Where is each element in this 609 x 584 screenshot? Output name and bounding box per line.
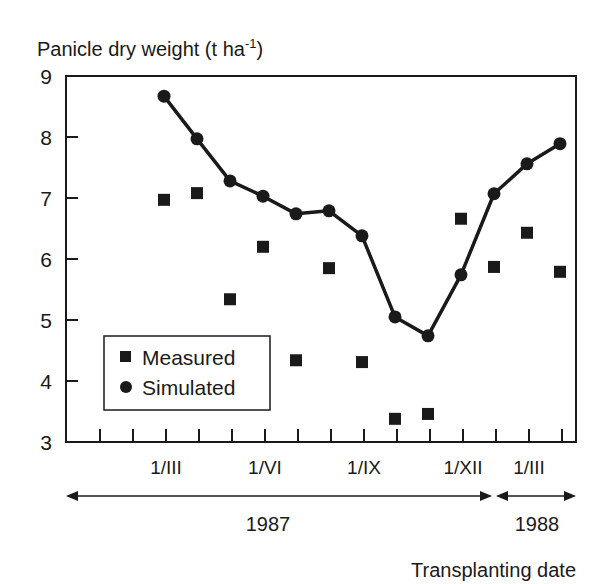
simulated-points [158,90,567,343]
measured-point [158,194,170,206]
y-tick-label: 4 [40,370,52,393]
measured-point [191,187,203,199]
x-month-label: 1/VI [248,457,282,478]
measured-point [422,408,434,420]
measured-point [554,266,566,278]
simulated-point [455,268,468,281]
y-tick-label: 7 [40,187,52,210]
simulated-point [224,174,237,187]
x-month-label: 1/III [150,457,182,478]
measured-point [356,356,368,368]
year-label: 1988 [515,513,560,535]
simulated-point [257,190,270,203]
year-label: 1987 [246,513,291,535]
y-axis-title: Panicle dry weight (t ha-1) [37,36,263,60]
simulated-point [191,132,204,145]
simulated-point [554,137,567,150]
simulated-point [323,204,336,217]
x-axis-title: Transplanting date [411,559,576,581]
simulated-point [290,207,303,220]
simulated-line [164,96,560,336]
simulated-point [389,310,402,323]
measured-point [323,262,335,274]
y-tick-label: 3 [40,431,52,454]
measured-point [488,261,500,273]
simulated-point [521,157,534,170]
simulated-point [158,90,171,103]
y-tick-label: 8 [40,126,52,149]
y-tick-label: 5 [40,309,52,332]
measured-point [455,213,467,225]
measured-point [389,413,401,425]
measured-point [257,241,269,253]
measured-point [521,227,533,239]
x-axis-ticks [100,429,562,442]
legend-label-measured: Measured [142,346,235,369]
panicle-weight-chart: Panicle dry weight (t ha-1) 3456789 1/II… [0,0,609,584]
measured-point [224,293,236,305]
legend: Measured Simulated [104,336,270,410]
measured-point [290,354,302,366]
x-month-label: 1/III [513,457,545,478]
y-tick-label: 9 [40,65,52,88]
y-tick-label: 6 [40,248,52,271]
simulated-point [422,329,435,342]
simulated-point [488,187,501,200]
legend-label-simulated: Simulated [142,376,235,399]
y-axis-ticks: 3456789 [40,65,78,454]
x-month-label: 1/IX [347,457,381,478]
x-axis-month-labels: 1/III1/VI1/IX1/XII1/III [150,457,545,478]
x-month-label: 1/XII [443,457,482,478]
year-span-arrows: 19871988 [66,491,576,535]
legend-circle-marker [120,381,132,393]
legend-square-marker [120,351,131,362]
simulated-point [356,229,369,242]
